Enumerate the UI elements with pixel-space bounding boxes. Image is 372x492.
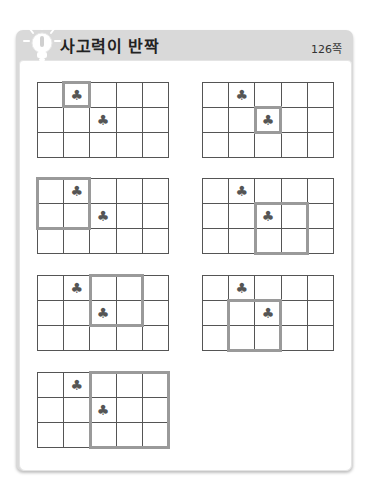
grid-cell	[90, 423, 116, 448]
grid-cell	[143, 83, 169, 108]
club-icon: ♣	[71, 377, 84, 393]
grid-cell	[203, 179, 229, 204]
grid-cell: ♣	[229, 83, 255, 108]
grid-cell	[38, 373, 64, 398]
grid-cell: ♣	[229, 276, 255, 301]
grid-cell: ♣	[90, 301, 116, 326]
grid-cell	[117, 276, 143, 301]
grid-cell	[229, 108, 255, 133]
grid-cell	[308, 83, 334, 108]
grid-cell	[308, 133, 334, 158]
grid-cell: ♣	[255, 108, 281, 133]
grid-cell	[90, 229, 116, 254]
page-number: 126쪽	[311, 40, 342, 56]
grid-cell	[308, 326, 334, 351]
grid-cell	[203, 83, 229, 108]
grid-cell	[38, 108, 64, 133]
grid-cell	[308, 276, 334, 301]
grid-cell: ♣	[255, 204, 281, 229]
club-icon: ♣	[262, 305, 275, 321]
club-icon: ♣	[71, 87, 84, 103]
grid-cell	[255, 83, 281, 108]
grid-cell	[38, 204, 64, 229]
grid-cell	[64, 108, 90, 133]
grid-cell	[143, 229, 169, 254]
grid-cell	[64, 229, 90, 254]
grid-cell	[282, 83, 308, 108]
grid-cell	[117, 229, 143, 254]
grid-cell	[117, 373, 143, 398]
grid-cell	[229, 204, 255, 229]
club-icon: ♣	[262, 208, 275, 224]
grid-cell	[117, 204, 143, 229]
grid-cell	[282, 326, 308, 351]
grid-cell	[90, 326, 116, 351]
club-icon: ♣	[71, 280, 84, 296]
grid-cell	[90, 373, 116, 398]
grid-cell	[38, 179, 64, 204]
club-icon: ♣	[236, 183, 249, 199]
puzzle-grid-3: ♣♣	[37, 178, 169, 254]
grid-cell	[255, 326, 281, 351]
grid-cell	[308, 229, 334, 254]
grid-cell	[117, 398, 143, 423]
grid-cell	[38, 423, 64, 448]
grid-cell: ♣	[90, 108, 116, 133]
grid-cell	[38, 301, 64, 326]
grid-cell	[143, 108, 169, 133]
grid-cell	[90, 83, 116, 108]
grid-cell	[117, 108, 143, 133]
grid-cell	[38, 398, 64, 423]
grid-cell	[38, 229, 64, 254]
grid-cell	[38, 83, 64, 108]
puzzle-grid-4: ♣♣	[202, 178, 334, 254]
club-icon: ♣	[236, 87, 249, 103]
grid-cell	[282, 276, 308, 301]
grid-cell	[282, 179, 308, 204]
grid-cell	[38, 133, 64, 158]
grid-cell	[64, 301, 90, 326]
grid-cell	[203, 108, 229, 133]
grid-cell	[308, 301, 334, 326]
grid-cell	[90, 179, 116, 204]
grid-cell	[282, 133, 308, 158]
grid-cell	[308, 204, 334, 229]
grid-cell	[117, 423, 143, 448]
grid-cell	[203, 276, 229, 301]
grid-cell	[117, 83, 143, 108]
grid-cell	[203, 229, 229, 254]
grid-cell	[117, 326, 143, 351]
grid-cell	[143, 276, 169, 301]
grid-cell	[143, 423, 169, 448]
grid-cell: ♣	[64, 179, 90, 204]
puzzle-grid-5: ♣♣	[37, 275, 169, 351]
grid-cell	[143, 398, 169, 423]
grid-cell	[255, 133, 281, 158]
grid-cell: ♣	[64, 83, 90, 108]
grid-cell	[64, 326, 90, 351]
lightbulb-icon	[22, 22, 62, 66]
grid-cell	[117, 179, 143, 204]
grid-cell	[308, 108, 334, 133]
grid-cell	[143, 133, 169, 158]
grid-cell	[90, 276, 116, 301]
grid-cell: ♣	[255, 301, 281, 326]
grid-cell	[143, 326, 169, 351]
grid-cell	[282, 301, 308, 326]
grid-cell	[203, 326, 229, 351]
club-icon: ♣	[97, 208, 110, 224]
grid-cell: ♣	[90, 204, 116, 229]
grid-cell	[255, 229, 281, 254]
club-icon: ♣	[97, 305, 110, 321]
grid-cell	[255, 179, 281, 204]
grid-cell: ♣	[64, 276, 90, 301]
grid-cell	[203, 301, 229, 326]
grid-cell	[203, 204, 229, 229]
grid-cell	[282, 108, 308, 133]
puzzle-grid-6: ♣♣	[202, 275, 334, 351]
grid-cell	[64, 398, 90, 423]
grid-cell	[64, 423, 90, 448]
club-icon: ♣	[236, 280, 249, 296]
grid-cell	[255, 276, 281, 301]
grid-cell	[308, 179, 334, 204]
